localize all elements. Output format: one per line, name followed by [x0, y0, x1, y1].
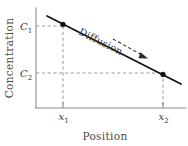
y-tick-label-c2: C2: [20, 68, 32, 82]
x-tick-label-x1-subscript: 1: [64, 117, 68, 125]
x-tick-labels-group: x1 x2: [59, 111, 169, 125]
y-tick-label-c1-subscript: 1: [28, 27, 32, 35]
y-tick-label-c1: C1: [20, 21, 32, 35]
x-tick-label-x2: x2: [159, 111, 169, 125]
x-tick-label-x1: x1: [59, 111, 69, 125]
diffusion-arrow-head-icon: [139, 52, 149, 58]
diffusion-annotation-group: Diffusion: [77, 26, 125, 57]
y-tick-label-c2-subscript: 2: [28, 74, 32, 82]
figure-canvas: Diffusion C1 C2 x1 x2 Concentration Posi…: [0, 0, 188, 146]
y-tick-labels-group: C1 C2: [20, 21, 32, 82]
diffusion-label: Diffusion: [77, 26, 125, 57]
data-point-2: [161, 72, 166, 77]
data-point-1: [61, 22, 66, 27]
x-axis-title: Position: [82, 130, 127, 142]
x-tick-label-x2-subscript: 2: [164, 117, 168, 125]
diffusion-concentration-figure: Diffusion C1 C2 x1 x2 Concentration Posi…: [0, 0, 188, 146]
y-axis-title: Concentration: [3, 18, 15, 99]
